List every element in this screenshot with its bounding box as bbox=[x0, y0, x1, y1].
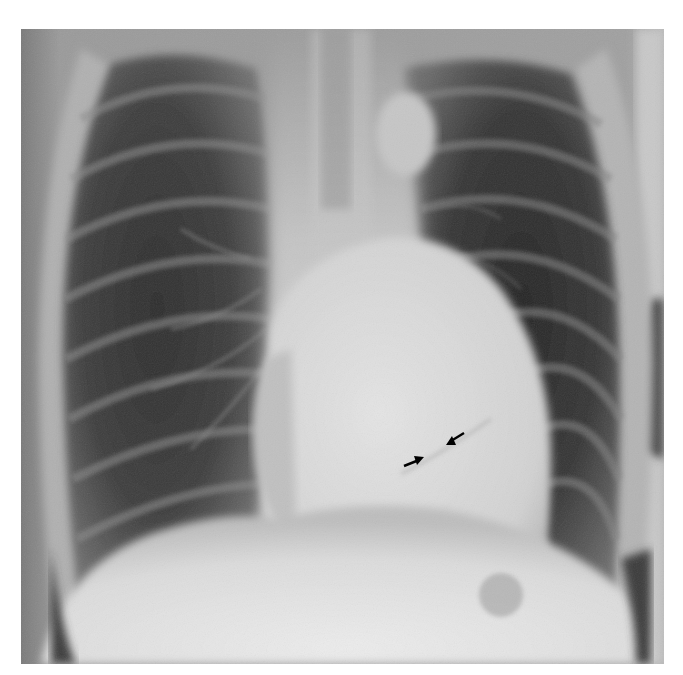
xray-illustration bbox=[21, 29, 664, 664]
chest-xray-image bbox=[21, 29, 664, 664]
